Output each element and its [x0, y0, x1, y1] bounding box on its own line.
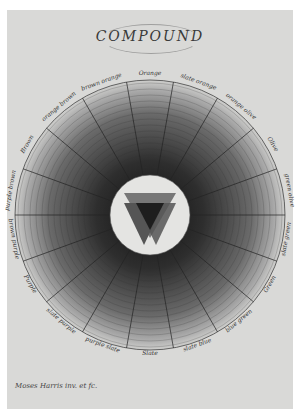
segment-label: Slate [142, 349, 158, 356]
color-wheel: Orangeslate orangeorange oliveOlivegreen… [0, 0, 299, 409]
segment-label: Orange [139, 69, 162, 77]
segment-label: green olive [283, 173, 297, 208]
